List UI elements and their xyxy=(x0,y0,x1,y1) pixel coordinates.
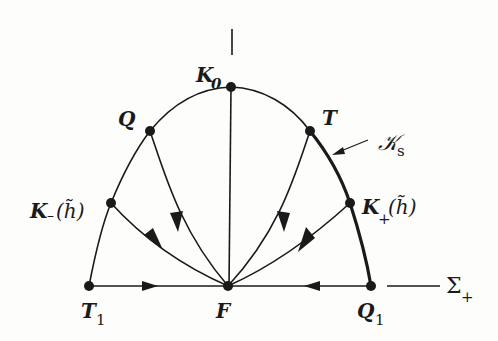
label-Kminus-tail: (h̃) xyxy=(56,199,85,223)
arrow-Q1-F xyxy=(304,281,320,291)
label-Ks-sub: s xyxy=(397,142,405,160)
label-Sigma: Σ xyxy=(446,273,462,298)
arrow-T-F xyxy=(277,211,290,232)
label-Q: Q xyxy=(118,107,136,131)
arrow-Kminus-F xyxy=(144,228,163,250)
node-Q xyxy=(145,126,155,136)
arrow-Kplus-F xyxy=(298,227,315,252)
label-T1-sub: 1 xyxy=(96,311,106,329)
label-Q1-sub: 1 xyxy=(375,311,385,329)
node-Kminus xyxy=(106,198,116,208)
trajectory-Kminus-F xyxy=(111,203,228,286)
phase-portrait-figure: K 0 Q T K – (h̃) K + (h̃) T 1 F Q 1 𝒦 s … xyxy=(0,0,498,341)
node-K0 xyxy=(226,82,236,92)
label-Kminus: K xyxy=(29,199,49,223)
arrow-Q-F xyxy=(170,211,183,232)
node-Kplus xyxy=(345,198,355,208)
node-T1 xyxy=(84,281,94,291)
node-F xyxy=(223,281,233,291)
node-Q1 xyxy=(366,281,376,291)
diagram-canvas: K 0 Q T K – (h̃) K + (h̃) T 1 F Q 1 𝒦 s … xyxy=(0,0,498,341)
label-K0-sub: 0 xyxy=(211,75,222,93)
label-Sigma-sub: + xyxy=(461,288,474,306)
Ks-pointer-head xyxy=(332,147,345,155)
trajectory-Q-F xyxy=(150,131,228,286)
label-F: F xyxy=(215,299,232,323)
label-Kminus-sub: – xyxy=(47,207,54,223)
arrow-T1-F xyxy=(142,281,158,291)
label-T: T xyxy=(322,106,339,130)
label-Kplus-tail: (h̃) xyxy=(388,195,417,219)
trajectory-T-F xyxy=(228,131,310,286)
node-T xyxy=(305,126,315,136)
label-Q1: Q xyxy=(357,299,375,323)
edge-K0-F xyxy=(229,87,231,286)
